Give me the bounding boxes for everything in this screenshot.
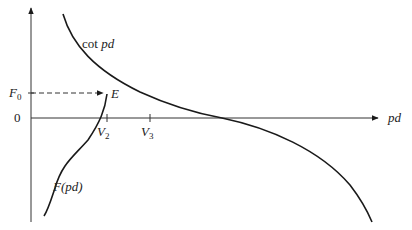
diagram-canvas: cot pd F0 0 E V2 V3 pd F(pd) [0, 0, 412, 230]
origin-label: 0 [14, 110, 21, 125]
f-curve-label: F(pd) [52, 179, 83, 194]
f-curve [44, 94, 107, 216]
tick-v2-label: V2 [97, 124, 109, 141]
tick-v3-label: V3 [141, 124, 154, 141]
x-axis-label: pd [387, 110, 402, 125]
point-e-label: E [110, 86, 119, 101]
cot-curve-label: cot pd [82, 36, 115, 51]
f0-label: F0 [8, 85, 22, 102]
